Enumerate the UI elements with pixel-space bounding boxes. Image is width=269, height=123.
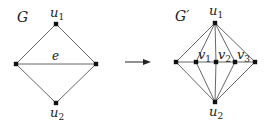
graph-g-prime-title: G′ — [175, 8, 190, 24]
edge-a-u2 — [16, 64, 56, 103]
graph-g: u1u2 G e — [14, 5, 98, 122]
node-label-u2: u2 — [209, 104, 223, 121]
node-label-u1: u1 — [50, 5, 64, 22]
edge-u2-v1 — [196, 62, 215, 102]
node-a — [14, 62, 18, 66]
edge-u2-v2 — [215, 62, 216, 102]
graph-transformation-diagram: u1u2 G e u1v1v2v3u2 G′ — [0, 0, 269, 123]
edge-e-label: e — [52, 49, 59, 63]
edge-u2-b — [215, 62, 255, 102]
edge-u1-b — [56, 24, 96, 64]
node-label-v1: v1 — [198, 47, 211, 64]
edge-b-u2 — [56, 64, 96, 103]
node-u1 — [54, 22, 58, 26]
node-label-u1: u1 — [209, 3, 223, 20]
node-b — [253, 60, 257, 64]
node-u1 — [213, 21, 217, 25]
edge-u1-v2 — [215, 23, 216, 62]
graph-g-title: G — [17, 9, 28, 25]
edge-u1-a — [16, 24, 56, 64]
arrow-icon — [125, 59, 151, 65]
node-label-u2: u2 — [50, 105, 64, 122]
node-a — [174, 60, 178, 64]
node-label-v2: v2 — [218, 47, 231, 64]
node-b — [94, 62, 98, 66]
node-label-v3: v3 — [237, 47, 250, 64]
edge-u2-a — [176, 62, 215, 102]
edge-u2-v3 — [215, 62, 235, 102]
graph-g-prime: u1v1v2v3u2 G′ — [174, 3, 257, 121]
